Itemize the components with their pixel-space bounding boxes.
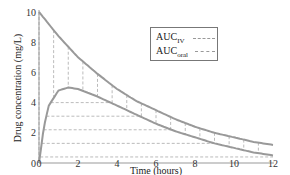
y-tick-label: 2 [31, 127, 36, 138]
x-tick-label: 0 [37, 158, 42, 169]
legend-iv-sub: IV [177, 37, 184, 45]
y-tick-labels: 0246810 [26, 7, 36, 169]
x-tick-label: 8 [193, 158, 198, 169]
legend-item-oral: AUCoral [156, 45, 188, 59]
x-tick-label: 4 [115, 158, 120, 169]
legend-iv-label: AUC [156, 31, 177, 42]
y-tick-label: 8 [31, 37, 36, 48]
y-tick-label: 6 [31, 67, 36, 78]
y-axis-label: Drug concentration (mg/L) [12, 34, 24, 142]
legend-item-iv: AUCIV [156, 31, 185, 45]
legend-oral-sub: oral [177, 51, 188, 59]
pk-chart: 024681012 0246810 Time (hours) Drug conc… [0, 0, 290, 175]
y-tick-label: 10 [26, 7, 36, 18]
y-tick-label: 4 [31, 97, 36, 108]
y-tick-label: 0 [31, 158, 36, 169]
x-tick-label: 12 [268, 158, 278, 169]
x-axis-label: Time (hours) [130, 165, 182, 175]
legend-oral-label: AUC [156, 45, 177, 56]
x-tick-label: 2 [76, 158, 81, 169]
oral-curve [39, 88, 273, 164]
legend: AUCIV AUCoral [150, 27, 218, 61]
x-tick-label: 10 [229, 158, 239, 169]
legend-oral-swatch [195, 51, 215, 52]
legend-iv-swatch [193, 38, 215, 39]
